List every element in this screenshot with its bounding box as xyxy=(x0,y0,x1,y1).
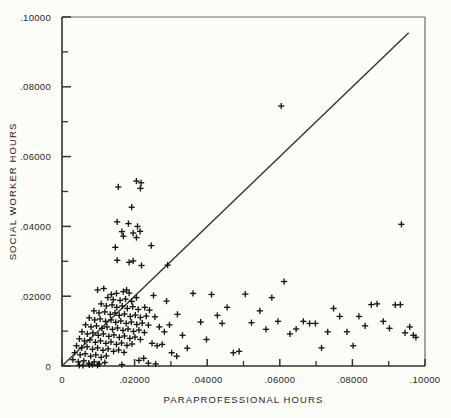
data-point xyxy=(136,327,142,333)
data-point xyxy=(128,319,134,325)
y-axis-title: SOCIAL WORKER HOURS xyxy=(7,123,18,261)
data-point xyxy=(121,349,127,355)
data-point xyxy=(135,306,141,312)
data-point xyxy=(133,234,139,240)
data-point xyxy=(109,326,115,332)
data-point xyxy=(126,259,132,265)
data-point xyxy=(132,334,138,340)
data-point xyxy=(344,329,350,335)
x-tick-label: 0 xyxy=(59,374,65,385)
x-tick-label: .10000 xyxy=(410,374,441,385)
data-point xyxy=(102,309,108,315)
data-point xyxy=(337,313,343,319)
data-point xyxy=(281,278,287,284)
data-point xyxy=(269,294,275,300)
y-tick-label: .06000 xyxy=(20,151,51,162)
data-point xyxy=(121,311,127,317)
data-point xyxy=(89,346,95,352)
data-point xyxy=(179,332,185,338)
data-point xyxy=(402,330,408,336)
data-point xyxy=(150,292,156,298)
y-tick-label: .08000 xyxy=(20,81,51,92)
data-point xyxy=(133,294,139,300)
data-point xyxy=(88,324,94,330)
data-point xyxy=(130,304,136,310)
data-point xyxy=(93,323,99,329)
data-point xyxy=(368,301,374,307)
data-point xyxy=(407,324,413,330)
data-point xyxy=(129,341,135,347)
data-point xyxy=(161,329,167,335)
data-point xyxy=(120,327,126,333)
data-point xyxy=(275,318,281,324)
data-point xyxy=(198,319,204,325)
data-point xyxy=(190,290,196,296)
data-point xyxy=(108,339,114,345)
data-point xyxy=(82,351,88,357)
y-tick-label: .02000 xyxy=(20,291,51,302)
x-tick-label: .04000 xyxy=(192,374,223,385)
data-point xyxy=(129,298,135,304)
data-point xyxy=(103,340,109,346)
data-point xyxy=(82,322,88,328)
data-point xyxy=(325,329,331,335)
data-point xyxy=(130,258,136,264)
data-point xyxy=(148,242,154,248)
y-tick-label: .10000 xyxy=(20,12,51,23)
data-point xyxy=(306,320,312,326)
data-point xyxy=(159,341,165,347)
data-point xyxy=(257,308,263,314)
data-point xyxy=(110,348,116,354)
data-point xyxy=(98,354,104,360)
data-point xyxy=(129,204,135,210)
data-point xyxy=(263,326,269,332)
data-point xyxy=(184,345,190,351)
data-point xyxy=(113,290,119,296)
data-point xyxy=(114,257,120,263)
data-point xyxy=(94,345,100,351)
data-point xyxy=(92,339,98,345)
data-point xyxy=(236,348,242,354)
data-point xyxy=(224,304,230,310)
data-point xyxy=(77,352,83,358)
data-point xyxy=(356,313,362,319)
data-point xyxy=(118,318,124,324)
data-point xyxy=(115,184,121,190)
data-point xyxy=(100,347,106,353)
data-point xyxy=(134,321,140,327)
data-point xyxy=(214,312,220,318)
data-point xyxy=(122,296,128,302)
data-point xyxy=(116,347,122,353)
data-point xyxy=(118,340,124,346)
data-point xyxy=(138,262,144,268)
data-point xyxy=(208,291,214,297)
data-point xyxy=(106,333,112,339)
x-tick-label: .08000 xyxy=(337,374,368,385)
data-point xyxy=(113,341,119,347)
data-point xyxy=(127,335,133,341)
data-point xyxy=(293,326,299,332)
data-point xyxy=(102,318,108,324)
data-point xyxy=(86,315,92,321)
data-point xyxy=(318,345,324,351)
data-point xyxy=(219,320,225,326)
data-point xyxy=(287,331,293,337)
data-point xyxy=(248,320,254,326)
data-point xyxy=(169,350,175,356)
data-point xyxy=(92,317,98,323)
data-point xyxy=(121,333,127,339)
data-point xyxy=(112,244,118,250)
data-point xyxy=(398,221,404,227)
x-axis-title: PARAPROFESSIONAL HOURS xyxy=(164,394,324,405)
data-point xyxy=(88,353,94,359)
plot-canvas: 0.02000.04000.06000.08000.100000.02000.0… xyxy=(0,0,451,418)
data-point xyxy=(114,325,120,331)
data-point xyxy=(380,318,386,324)
data-point xyxy=(156,324,162,330)
data-point xyxy=(141,329,147,335)
data-point xyxy=(362,323,368,329)
data-point xyxy=(116,334,122,340)
data-point xyxy=(75,359,81,365)
data-point xyxy=(230,350,236,356)
data-point xyxy=(101,285,107,291)
